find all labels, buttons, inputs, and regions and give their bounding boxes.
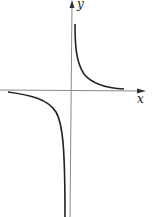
x-axis-label: x	[137, 92, 144, 106]
y-axis-label: y	[76, 0, 84, 11]
y-axis	[70, 4, 72, 217]
hyperbola-plot: x y	[0, 0, 153, 217]
y-axis-arrow	[70, 0, 75, 8]
left-branch-curve	[8, 92, 65, 217]
right-branch-curve	[75, 24, 124, 89]
